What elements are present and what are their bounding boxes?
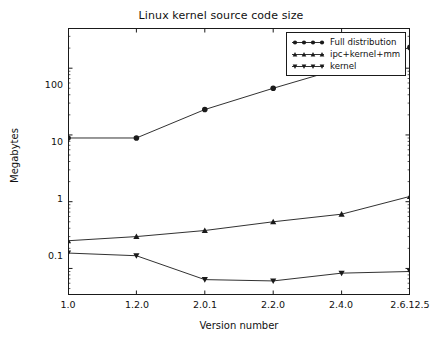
legend-label-1: ipc+kernel+mm <box>330 49 400 60</box>
chart-legend: Full distribution ipc+kernel+mm kernel <box>286 32 406 76</box>
legend-item-kernel: kernel <box>291 60 400 72</box>
y-tick-label-100: 100 <box>0 79 63 90</box>
legend-label-2: kernel <box>330 61 356 72</box>
y-axis-label: Megabytes <box>9 106 20 206</box>
x-axis-label: Version number <box>68 320 410 331</box>
legend-marker-triangle-up <box>291 49 325 60</box>
legend-marker-triangle-down <box>291 61 325 72</box>
x-tick-label-0: 1.0 <box>38 299 98 310</box>
x-tick-label-1: 1.2.0 <box>107 299 167 310</box>
chart-title: Linux kernel source code size <box>0 9 442 22</box>
x-tick-label-3: 2.2.0 <box>243 299 303 310</box>
legend-item-full-distribution: Full distribution <box>291 36 400 48</box>
legend-label-0: Full distribution <box>330 37 396 48</box>
data-series-group <box>68 45 410 284</box>
x-tick-label-2: 2.0.1 <box>175 299 235 310</box>
chart-figure: Linux kernel source code size Megabytes … <box>0 0 442 344</box>
y-tick-label-1: 1 <box>0 193 63 204</box>
legend-marker-circle <box>291 37 325 48</box>
y-tick-label-0.1: 0.1 <box>0 250 63 261</box>
y-tick-label-10: 10 <box>0 136 63 147</box>
x-tick-label-4: 2.4.0 <box>311 299 371 310</box>
x-tick-label-5: 2.6.12.5 <box>380 299 440 310</box>
legend-item-ipc-kernel-mm: ipc+kernel+mm <box>291 48 400 60</box>
